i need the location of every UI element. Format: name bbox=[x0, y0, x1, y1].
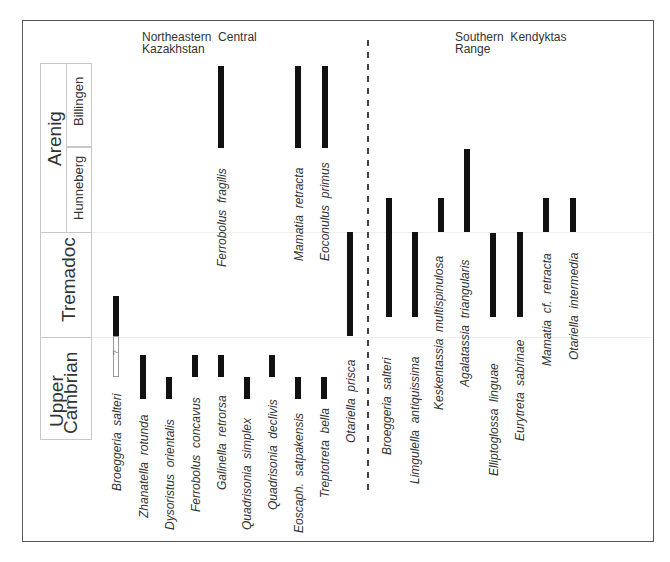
stage-label-tremadoc: Tremadoc bbox=[58, 237, 80, 322]
region-divider bbox=[367, 40, 369, 490]
stage-label-hunneberg: Hunneberg bbox=[71, 156, 86, 220]
range-bar-eoconulus-primus bbox=[322, 66, 328, 148]
taxon-label: Eurytreta sabrinae bbox=[513, 340, 527, 441]
taxon-label: Zhanatella rotunda bbox=[137, 415, 151, 518]
range-bar-mamatia-retracta bbox=[295, 66, 301, 148]
taxon-label: Eoconulus primus bbox=[318, 162, 332, 261]
taxon-label: Eoscaph. satpakensis bbox=[292, 413, 306, 533]
range-bar-elliptoglossa-linguae bbox=[490, 233, 496, 317]
range-bar-mamatia-cf-retracta bbox=[543, 198, 549, 232]
taxon-label: Otariella prisca bbox=[344, 360, 358, 443]
taxon-label: Treptotreta bella bbox=[318, 408, 332, 498]
boundary-tremadoc-arenig bbox=[92, 232, 652, 233]
range-bar-broeggeria-salteri-uncertain bbox=[113, 336, 119, 377]
taxon-label: Limgulella antiquissima bbox=[408, 357, 422, 484]
range-bar-quadrisonia-simplex bbox=[244, 377, 250, 399]
taxon-label: Elliptoglossa linguae bbox=[487, 363, 501, 476]
taxon-label: Broeggeria salteri bbox=[110, 394, 124, 491]
taxon-label: Ferrobolus concavus bbox=[189, 397, 203, 512]
range-bar-limgulella-antiquissima bbox=[412, 232, 418, 317]
taxon-label: Mamatia cf. retracta bbox=[540, 253, 554, 366]
range-bar-ferrobolus-concavus bbox=[192, 355, 198, 377]
stage-label-cambrian: Cambrian bbox=[61, 352, 80, 434]
range-bar-quadrisonia-declivis bbox=[269, 355, 275, 377]
range-bar-otariella-prisca bbox=[347, 232, 353, 336]
range-bar-keskentassia-multispinulosa bbox=[438, 198, 444, 232]
range-bar-broeggeria-salteri-nck bbox=[113, 296, 119, 336]
range-bar-otariella-intermedia bbox=[570, 198, 576, 232]
taxon-label: Mamatia retracta bbox=[292, 168, 306, 261]
taxon-label: Keskentassia multispinulosa bbox=[432, 256, 446, 410]
stage-label-billingen: Billingen bbox=[71, 77, 86, 126]
range-bar-broeggeria-salteri-skr bbox=[386, 198, 392, 317]
region-title-left-line2: Kazakhstan bbox=[142, 43, 205, 55]
region-title-right-line2: Range bbox=[455, 43, 490, 55]
taxon-label: Quadrisonia declivis bbox=[266, 399, 280, 510]
range-bar-zhanatella-rotunda bbox=[140, 355, 146, 399]
taxon-label: Quadrisonia simplex bbox=[240, 418, 254, 530]
taxon-label: Broeggeria salteri bbox=[380, 358, 394, 455]
range-bar-eoscaph-satpakensis bbox=[295, 377, 301, 399]
taxon-label: Dysoristus orientalis bbox=[163, 419, 177, 530]
range-bar-treptotreta-bella bbox=[321, 377, 327, 399]
range-bar-dysoristus-orientalis bbox=[166, 377, 172, 399]
taxon-label: Agalatassia triangularis bbox=[458, 260, 472, 387]
range-bar-agalatassia-triangularis bbox=[464, 149, 470, 232]
uncertain-mark: ? bbox=[111, 350, 120, 354]
taxon-label: Ferrobolus fragilis bbox=[215, 168, 229, 267]
range-bar-eurytreta-sabrinae bbox=[517, 232, 523, 317]
range-bar-ferrobolus-fragilis bbox=[218, 66, 224, 148]
range-bar-galinella-retrorsa bbox=[218, 355, 224, 377]
taxon-label: Galinella retrorsa bbox=[215, 395, 229, 490]
stage-label-arenig: Arenig bbox=[44, 111, 66, 166]
taxon-label: Otariella intermedia bbox=[567, 253, 581, 360]
